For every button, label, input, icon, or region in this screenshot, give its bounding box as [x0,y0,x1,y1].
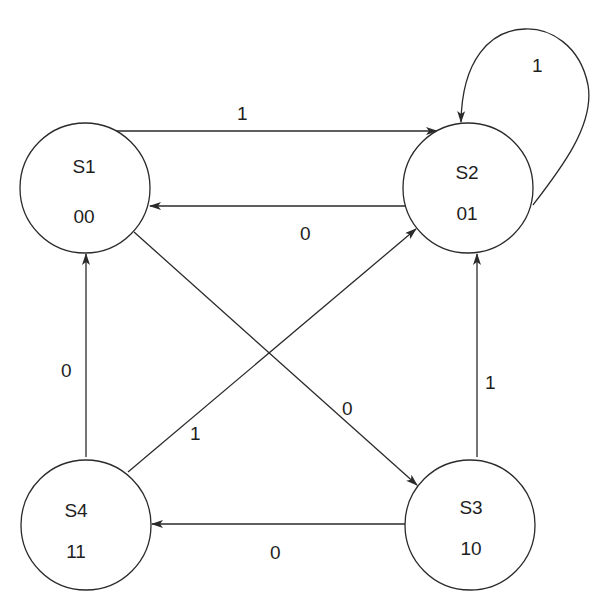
state-code: 00 [73,206,94,227]
transition-s4-s1: 0 [61,254,86,457]
state-s2: S2 01 [403,123,533,253]
transition-s3-s2: 1 [477,254,496,457]
transition-s1-s2: 1 [116,103,437,131]
state-code: 11 [66,541,86,562]
state-s1: S1 00 [20,123,150,253]
state-s4: S4 11 [21,460,151,590]
transition-label: 1 [237,103,248,124]
state-s3: S3 10 [405,460,535,590]
state-name: S2 [455,162,478,183]
transition-label: 0 [61,360,72,381]
transition-label: 1 [485,372,496,393]
transition-label: 0 [342,398,353,419]
transition-label: 0 [300,223,311,244]
state-name: S3 [459,497,482,518]
state-code: 01 [456,203,477,224]
transition-s3-s4: 0 [152,524,405,563]
transition-label: 0 [270,542,281,563]
state-diagram: 1 0 1 0 1 0 1 0 S1 00 S2 01 S [0,0,601,610]
transition-label: 1 [190,423,201,444]
transition-s1-s3: 0 [134,232,417,485]
state-code: 10 [460,538,481,559]
transition-s2-s1: 0 [150,206,405,244]
state-name: S4 [64,500,88,521]
transition-label: 1 [532,55,543,76]
state-name: S1 [72,156,95,177]
